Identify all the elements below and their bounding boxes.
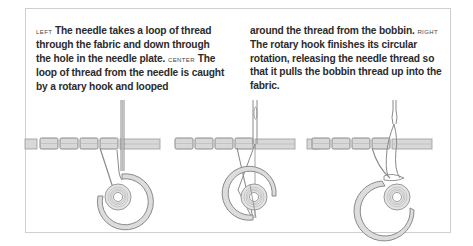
fabric-stitches [40, 138, 118, 149]
panel-center [25, 100, 319, 220]
sewing-diagram [0, 0, 473, 246]
panel-right [312, 100, 432, 241]
panel-left [40, 100, 160, 230]
needle [392, 100, 397, 124]
fabric-stitches [312, 138, 390, 149]
fabric-stitches [175, 138, 253, 149]
needle [121, 100, 124, 171]
needle [253, 100, 257, 144]
